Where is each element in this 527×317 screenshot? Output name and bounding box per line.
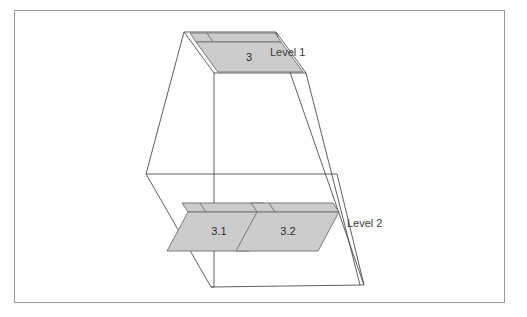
figure-root: 3 3.1 3.2 Level 1 Level 2 — [0, 0, 527, 317]
diagram-canvas: 3 3.1 3.2 Level 1 Level 2 — [0, 0, 527, 317]
cell-3-1-label: 3.1 — [211, 225, 226, 237]
cell-3-label: 3 — [246, 51, 252, 63]
cell-3-2-label: 3.2 — [280, 225, 295, 237]
level-2-label: Level 2 — [347, 217, 382, 229]
cell-3-2-top-strip — [251, 203, 339, 212]
cell-3-top-strip — [190, 33, 281, 42]
level-1-label: Level 1 — [270, 46, 305, 58]
